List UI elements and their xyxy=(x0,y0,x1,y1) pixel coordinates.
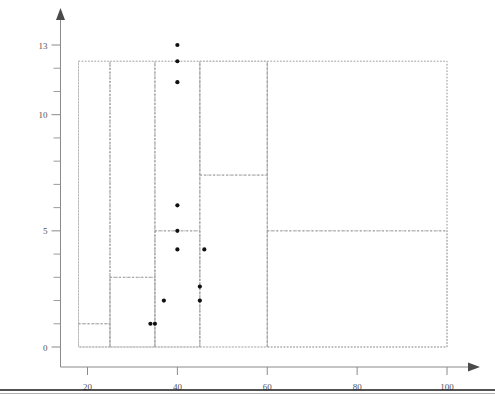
data-point-2 xyxy=(175,80,179,84)
partition-rect-root xyxy=(79,61,447,347)
data-point-6 xyxy=(202,247,206,251)
partition-rect-left-lower xyxy=(79,324,110,347)
footer-rule-layer xyxy=(0,390,495,394)
y-axis-arrow-icon xyxy=(56,8,65,20)
tick-labels-layer: 05101320406080100 xyxy=(39,41,455,393)
y-tick-label-0: 0 xyxy=(43,343,48,353)
tick-marks-layer xyxy=(52,45,448,375)
data-point-1 xyxy=(175,59,179,63)
plot-canvas: 05101320406080100 xyxy=(0,0,495,406)
data-point-8 xyxy=(198,298,202,302)
data-point-4 xyxy=(175,229,179,233)
y-tick-label-10: 10 xyxy=(39,110,49,120)
partition-split-lines-layer xyxy=(79,61,447,347)
data-point-0 xyxy=(175,43,179,47)
data-point-5 xyxy=(175,247,179,251)
y-tick-label-13: 13 xyxy=(39,41,49,51)
partition-rect-mid-left-block xyxy=(110,61,155,347)
x-axis-arrow-icon xyxy=(468,363,480,372)
partition-rect-mid-left-lower xyxy=(110,277,155,347)
partition-rect-left-block xyxy=(79,61,110,347)
partition-rectangles-layer xyxy=(79,61,447,347)
data-points-layer xyxy=(148,43,206,326)
y-tick-label-5: 5 xyxy=(43,226,48,236)
data-point-7 xyxy=(198,285,202,289)
data-point-11 xyxy=(148,322,152,326)
partition-rect-right-lower xyxy=(267,231,447,347)
partition-rect-right-block xyxy=(267,61,447,347)
axes-layer xyxy=(56,8,480,372)
data-point-3 xyxy=(175,203,179,207)
partition-rect-right-mid-block xyxy=(200,61,267,347)
data-point-10 xyxy=(153,322,157,326)
partition-rect-right-mid-upper xyxy=(200,61,267,175)
scatter-partition-figure: 05101320406080100 xyxy=(0,0,495,406)
data-point-9 xyxy=(162,298,166,302)
